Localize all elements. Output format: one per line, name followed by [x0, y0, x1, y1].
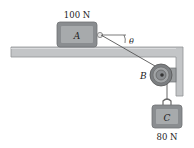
block-c: C	[152, 105, 182, 128]
angle-arc	[124, 35, 125, 43]
block-a: A	[57, 22, 103, 47]
pulley-diagram: A 100 N θ B C 80 N	[0, 0, 194, 148]
block-c-weight: 80 N	[157, 132, 179, 142]
angle-label: θ	[129, 37, 134, 46]
pulley-b	[150, 64, 172, 86]
block-c-label: C	[164, 113, 171, 123]
block-a-label: A	[73, 31, 81, 41]
pulley-b-label: B	[139, 71, 147, 81]
block-a-weight: 100 N	[64, 10, 91, 20]
